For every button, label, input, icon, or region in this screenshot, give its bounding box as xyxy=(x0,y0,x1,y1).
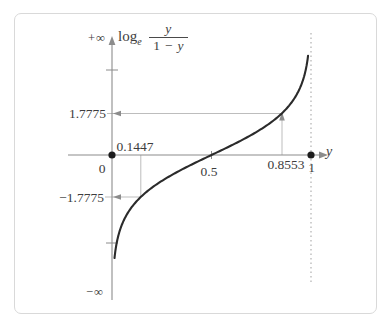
x-axis-variable-label: y xyxy=(326,144,332,159)
fraction-numerator: y xyxy=(155,22,181,37)
guide-arrow-left-icon xyxy=(113,111,121,117)
den-one: 1 xyxy=(153,38,160,53)
logit-function-figure: loge y 1−y +∞ 1.7775 0.1447 0 0.5 0.8553… xyxy=(0,0,391,331)
fraction-denominator: 1−y xyxy=(149,38,188,53)
axis-title: loge y 1−y xyxy=(118,22,188,53)
guide-arrow-left-icon xyxy=(113,194,121,200)
x-label-0.5: 0.5 xyxy=(196,164,222,179)
origin-label: 0 xyxy=(94,161,110,176)
y-axis-arrowhead-icon xyxy=(109,36,116,45)
plus-infinity-label: +∞ xyxy=(66,31,106,46)
log-operator: loge xyxy=(118,28,142,47)
log-base: e xyxy=(137,36,141,47)
x-label-0.1447: 0.1447 xyxy=(110,139,160,154)
fraction: y 1−y xyxy=(149,22,188,53)
minus-infinity-label: −∞ xyxy=(66,285,104,300)
value-label-minus-1.7775: −1.7775 xyxy=(46,190,104,205)
den-var: y xyxy=(178,38,184,53)
den-minus: − xyxy=(165,38,173,53)
x-label-1: 1 xyxy=(304,160,319,175)
value-label-1.7775: 1.7775 xyxy=(54,106,106,121)
